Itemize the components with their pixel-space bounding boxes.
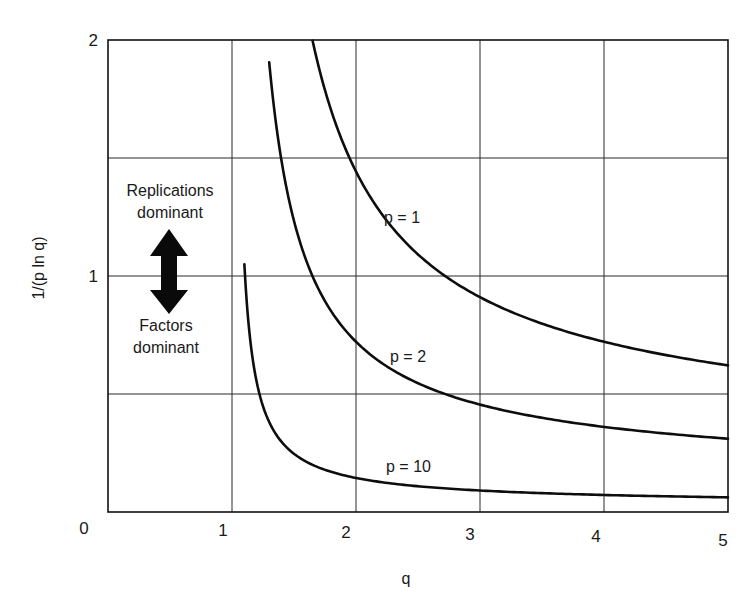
chart: p = 1 p = 2 p = 10 Replications dominant…	[0, 0, 754, 614]
y-tick-1: 1	[89, 267, 98, 286]
x-tick-1: 1	[218, 521, 227, 540]
x-tick-0: 0	[79, 519, 88, 538]
double-arrow-icon	[150, 229, 188, 314]
label-p1: p = 1	[384, 209, 420, 226]
x-tick-2: 2	[341, 523, 350, 542]
grid	[108, 40, 728, 512]
curve-p1	[313, 41, 728, 366]
replications-label-line1: Replications	[126, 182, 213, 199]
x-tick-5: 5	[718, 531, 727, 550]
factors-label-line1: Factors	[139, 317, 192, 334]
curves	[244, 41, 728, 498]
replications-label-line2: dominant	[137, 204, 203, 221]
y-axis-label: 1/(p ln q)	[30, 236, 47, 299]
label-p10: p = 10	[386, 458, 431, 475]
x-tick-3: 3	[465, 525, 474, 544]
label-p2: p = 2	[390, 348, 426, 365]
x-axis-label: q	[402, 570, 411, 587]
x-tick-4: 4	[591, 527, 600, 546]
y-tick-2: 2	[89, 31, 98, 50]
curve-p2	[269, 62, 728, 438]
factors-label-line2: dominant	[133, 339, 199, 356]
